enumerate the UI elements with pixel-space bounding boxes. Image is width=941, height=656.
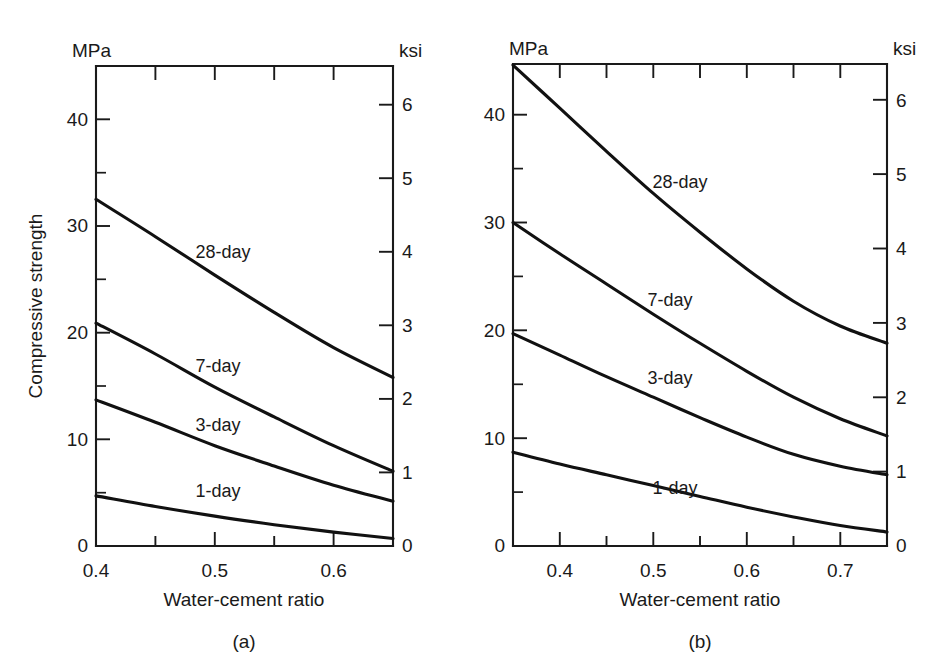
panel-a-svg: MPa ksi (0, 0, 470, 656)
panel-b-caption: (b) (688, 631, 711, 652)
panel-b-right-tick-2: 2 (896, 387, 907, 408)
panel-b-right-tick-4: 4 (896, 238, 907, 259)
panel-b-left-major-ticks (513, 115, 527, 546)
panel-b-x-tick-0p5: 0.5 (640, 560, 666, 581)
panel-b-svg: MPa ksi (470, 0, 941, 656)
panel-a-right-ticks (379, 105, 393, 473)
panel-a-curve-7-day (96, 323, 393, 471)
panel-b-left-tick-30: 30 (484, 212, 505, 233)
panel-a-top-ticks (155, 66, 333, 80)
panel-b-right-tick-1: 1 (896, 461, 907, 482)
panel-b-curve-7-day (513, 223, 887, 437)
panel-b-right-tick-0: 0 (896, 535, 907, 556)
panel-a-curve-1-day (96, 496, 393, 539)
panel-a-left-tick-40: 40 (67, 109, 88, 130)
panel-a-curve-28-day (96, 199, 393, 377)
panel-a-label-7-day: 7-day (195, 356, 240, 376)
panel-b-plot-frame (513, 64, 887, 546)
panel-b-x-tick-0p4: 0.4 (547, 560, 574, 581)
panel-b-x-axis-title: Water-cement ratio (620, 589, 781, 610)
panel-a-bottom-ticks (96, 532, 334, 546)
panel-a-right-unit-label: ksi (399, 40, 422, 61)
figure-compressive-strength-vs-water-cement-ratio: MPa ksi (0, 0, 941, 656)
panel-b-label-1-day: 1-day (652, 478, 697, 498)
panel-b-x-tick-labels: 0.4 0.5 0.6 0.7 (547, 560, 854, 581)
panel-a-x-tick-0p6: 0.6 (320, 560, 346, 581)
panel-a-x-tick-0p4: 0.4 (83, 560, 110, 581)
panel-a-right-tick-2: 2 (402, 388, 413, 409)
panel-a-plot-frame (96, 66, 393, 546)
panel-a-left-unit-label: MPa (72, 40, 112, 61)
panel-a-left-tick-10: 10 (67, 429, 88, 450)
panel-a-left-tick-labels: 0 10 20 30 40 (67, 109, 88, 556)
panel-a-x-axis-title: Water-cement ratio (164, 589, 325, 610)
panel-a-left-tick-0: 0 (77, 535, 88, 556)
panel-a-right-tick-1: 1 (402, 462, 413, 483)
panel-b-series-labels: 28-day 7-day 3-day 1-day (647, 172, 707, 498)
panel-b-right-ticks (873, 100, 887, 472)
chart-panel-a: MPa ksi (0, 0, 470, 656)
panel-b-x-tick-0p6: 0.6 (734, 560, 760, 581)
panel-a-x-tick-labels: 0.4 0.5 0.6 (83, 560, 347, 581)
panel-a-right-tick-0: 0 (402, 535, 413, 556)
panel-a-left-tick-30: 30 (67, 215, 88, 236)
panel-b-curve-28-day (513, 65, 887, 343)
panel-b-top-ticks (560, 64, 841, 78)
panel-b-x-tick-0p7: 0.7 (827, 560, 853, 581)
panel-b-label-28-day: 28-day (652, 172, 707, 192)
panel-a-right-tick-6: 6 (402, 94, 413, 115)
panel-a-right-tick-5: 5 (402, 168, 413, 189)
panel-a-label-3-day: 3-day (195, 415, 240, 435)
panel-b-label-7-day: 7-day (647, 290, 692, 310)
panel-b-left-tick-10: 10 (484, 428, 505, 449)
panel-b-right-tick-3: 3 (896, 313, 907, 334)
chart-panel-b: MPa ksi (470, 0, 941, 656)
panel-b-curves (513, 65, 887, 532)
panel-a-right-tick-4: 4 (402, 241, 413, 262)
panel-b-left-unit-label: MPa (509, 38, 549, 59)
panel-b-bottom-ticks (560, 532, 841, 546)
panel-b-left-tick-0: 0 (494, 535, 505, 556)
panel-b-right-unit-label: ksi (893, 38, 916, 59)
panel-a-caption: (a) (232, 631, 255, 652)
panel-a-curve-3-day (96, 400, 393, 501)
panel-b-left-tick-labels: 0 10 20 30 40 (484, 104, 505, 556)
panel-a-y-axis-title: Compressive strength (25, 214, 46, 399)
panel-a-x-tick-0p5: 0.5 (202, 560, 228, 581)
panel-b-label-3-day: 3-day (647, 368, 692, 388)
panel-a-left-tick-20: 20 (67, 322, 88, 343)
panel-b-right-tick-labels: 0 1 2 3 4 5 6 (896, 90, 907, 556)
panel-b-left-tick-40: 40 (484, 104, 505, 125)
panel-b-right-tick-5: 5 (896, 164, 907, 185)
panel-b-curve-3-day (513, 334, 887, 475)
panel-b-left-tick-20: 20 (484, 320, 505, 341)
panel-a-label-28-day: 28-day (195, 242, 250, 262)
panel-a-label-1-day: 1-day (195, 481, 240, 501)
panel-a-left-major-ticks (96, 119, 110, 546)
panel-a-right-tick-labels: 0 1 2 3 4 5 6 (402, 94, 413, 556)
panel-b-right-tick-6: 6 (896, 90, 907, 111)
panel-a-right-tick-3: 3 (402, 315, 413, 336)
